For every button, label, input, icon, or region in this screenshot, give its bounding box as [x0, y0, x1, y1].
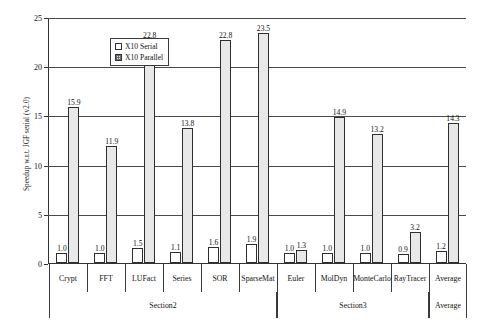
section-label-section2: Section2 — [49, 292, 277, 318]
category-label-sparsemat: SparseMat — [239, 264, 277, 292]
y-axis-title: Speedup w.r.t. JGF serial (v2.0) — [23, 54, 31, 234]
bar-serial[interactable]: 0.9 — [398, 254, 409, 263]
category-label-euler: Euler — [277, 264, 315, 292]
section-edge — [429, 292, 430, 318]
bar-parallel[interactable]: 11.9 — [106, 146, 117, 263]
bar-value-label: 3.2 — [410, 223, 420, 232]
y-tick-mark — [44, 215, 48, 216]
legend-swatch-serial-icon — [115, 43, 122, 50]
category-separator — [239, 264, 240, 292]
bar-value-label: 11.9 — [105, 137, 118, 146]
bar-serial[interactable]: 1.1 — [170, 252, 181, 263]
section-edge — [49, 292, 50, 318]
bar-parallel[interactable]: 13.2 — [372, 134, 383, 263]
y-tick-label: 0 — [38, 260, 42, 269]
bar-value-label: 1.6 — [209, 238, 219, 247]
bar-parallel[interactable]: 15.9 — [68, 107, 79, 263]
bar-serial[interactable]: 1.0 — [94, 253, 105, 263]
bar-serial[interactable]: 1.2 — [436, 251, 447, 263]
bar-group: 1.014.9 — [314, 18, 352, 263]
category-separator — [429, 264, 430, 292]
bar-value-label: 1.1 — [171, 243, 181, 252]
category-separator — [49, 264, 50, 292]
chart-legend: X10 Serial X10 Parallel — [110, 38, 169, 66]
section-label-text: Section3 — [339, 301, 366, 310]
category-label-average: Average — [429, 264, 467, 292]
bar-serial[interactable]: 1.6 — [208, 247, 219, 263]
bar-group: 1.622.8 — [201, 18, 239, 263]
bar-value-label: 1.0 — [285, 244, 295, 253]
bar-serial[interactable]: 1.0 — [360, 253, 371, 263]
category-label-lufact: LUFact — [125, 264, 163, 292]
category-separator — [87, 264, 88, 292]
bar-group: 1.015.9 — [49, 18, 87, 263]
category-label-text: Euler — [288, 274, 305, 283]
category-label-montecarlo: MonteCarlo — [353, 264, 391, 292]
category-label-text: LUFact — [132, 274, 156, 283]
y-tick-mark — [44, 67, 48, 68]
bar-group: 1.923.5 — [239, 18, 277, 263]
bar-value-label: 1.3 — [297, 241, 307, 250]
bar-parallel[interactable]: 22.8 — [144, 40, 155, 263]
bar-value-label: 0.9 — [398, 245, 408, 254]
legend-label-parallel: X10 Parallel — [125, 53, 163, 63]
category-label-text: SOR — [212, 274, 227, 283]
category-separator — [353, 264, 354, 292]
bar-serial[interactable]: 1.0 — [322, 253, 333, 263]
bar-parallel[interactable]: 1.3 — [296, 250, 307, 263]
category-label-text: RayTracer — [394, 274, 427, 283]
bar-group: 0.93.2 — [390, 18, 428, 263]
bar-serial[interactable]: 1.9 — [246, 244, 257, 263]
section-label-text: Average — [435, 301, 461, 310]
section-edge — [277, 292, 278, 318]
category-label-sor: SOR — [201, 264, 239, 292]
category-label-text: Crypt — [59, 274, 77, 283]
bar-value-label: 1.0 — [95, 244, 105, 253]
section-label-text: Section2 — [149, 301, 176, 310]
legend-item-serial: X10 Serial — [115, 41, 163, 52]
category-label-text: Average — [435, 274, 461, 283]
legend-item-parallel: X10 Parallel — [115, 52, 163, 63]
bar-value-label: 22.8 — [219, 31, 232, 40]
bar-parallel[interactable]: 23.5 — [258, 33, 269, 263]
category-label-text: MolDyn — [321, 274, 347, 283]
category-separator — [163, 264, 164, 292]
category-separator — [125, 264, 126, 292]
bar-serial[interactable]: 1.5 — [132, 248, 143, 263]
section-edge — [466, 292, 467, 318]
category-label-crypt: Crypt — [49, 264, 87, 292]
bar-group: 1.214.3 — [428, 18, 466, 263]
y-tick-mark — [44, 18, 48, 19]
bar-parallel[interactable]: 22.8 — [220, 40, 231, 263]
bar-parallel[interactable]: 14.3 — [448, 123, 459, 263]
y-tick-label: 25 — [34, 14, 42, 23]
category-label-text: SparseMat — [241, 274, 274, 283]
y-tick-label: 20 — [34, 63, 42, 72]
bar-value-label: 15.9 — [67, 98, 80, 107]
speedup-bar-chart: Speedup w.r.t. JGF serial (v2.0) 0510152… — [0, 0, 482, 330]
bar-value-label: 13.8 — [181, 119, 194, 128]
y-tick-label: 15 — [34, 112, 42, 121]
bar-value-label: 13.2 — [371, 125, 384, 134]
category-separator — [277, 264, 278, 292]
category-label-text: Series — [172, 274, 191, 283]
category-separator — [391, 264, 392, 292]
y-tick-mark — [44, 166, 48, 167]
bar-value-label: 1.2 — [436, 242, 446, 251]
section-label-average: Average — [429, 292, 467, 318]
bar-serial[interactable]: 1.0 — [56, 253, 67, 263]
plot-area: 0510152025 1.015.91.011.91.522.81.113.81… — [48, 18, 466, 264]
bar-value-label: 1.0 — [360, 244, 370, 253]
bar-serial[interactable]: 1.0 — [284, 253, 295, 263]
category-separator — [315, 264, 316, 292]
y-tick-mark — [44, 116, 48, 117]
bar-value-label: 14.9 — [333, 108, 346, 117]
y-tick-label: 10 — [34, 161, 42, 170]
bar-group: 1.01.3 — [276, 18, 314, 263]
bar-parallel[interactable]: 13.8 — [182, 128, 193, 263]
bar-parallel[interactable]: 14.9 — [334, 117, 345, 263]
bar-value-label: 23.5 — [257, 24, 270, 33]
section-labels: Section2Section3Average — [49, 292, 467, 318]
bar-parallel[interactable]: 3.2 — [410, 232, 421, 263]
category-label-fft: FFT — [87, 264, 125, 292]
